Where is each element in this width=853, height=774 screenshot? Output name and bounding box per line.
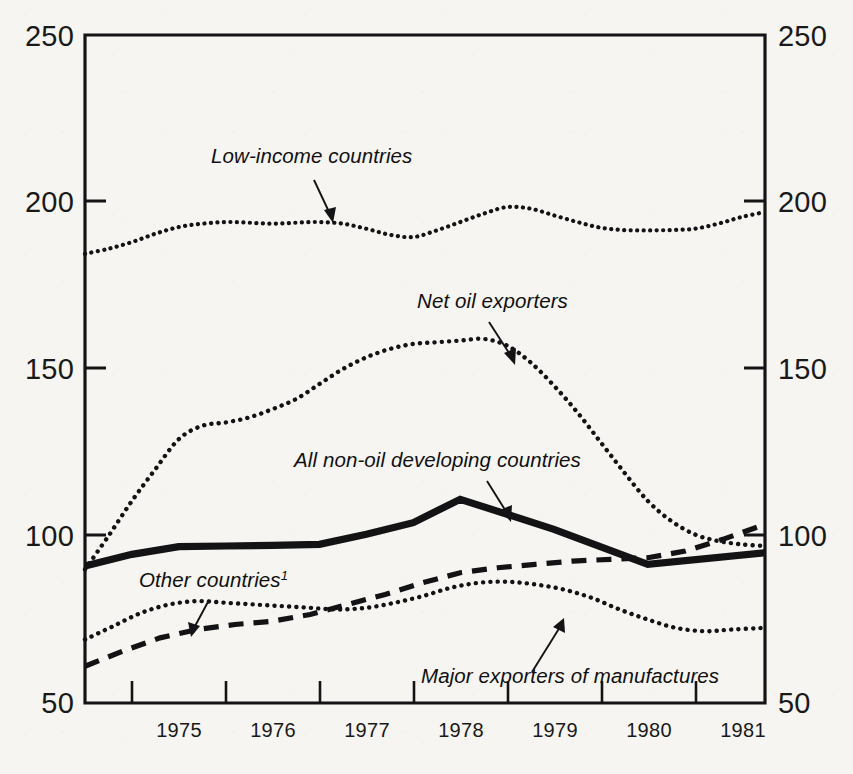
y-axis-label-left-200: 200 [25,186,74,218]
data-series-group [85,207,765,667]
series-label-other-countries: Other countries1 [139,568,288,591]
arrowhead-low-income [324,207,336,223]
leader-line-low-income [314,180,330,214]
series-line-all-non-oil-developing-countries [85,499,765,566]
y-axis-label-right-150: 150 [778,353,827,385]
arrowhead-other-countries [188,622,200,637]
x-axis-label-1979: 1979 [532,719,578,741]
x-axis-label-1975: 1975 [156,719,202,741]
x-axis-label-1978: 1978 [438,719,484,741]
y-axis-label-left-100: 100 [25,520,74,552]
y-axis-label-right-100: 100 [778,520,827,552]
series-line-low-income-countries [85,207,765,254]
y-axis-label-left-150: 150 [25,353,74,385]
y-axis-label-left-250: 250 [25,20,74,52]
y-axis-label-right-200: 200 [778,186,827,218]
y-axis-label-right-250: 250 [778,20,827,52]
series-label-major-exporters-of-manufactures: Major exporters of manufactures [421,664,719,687]
series-label-other-countries-text: Other countries [139,568,281,591]
arrowhead-net-oil-exporters [504,348,516,365]
y-axis-ticks-right [744,201,765,535]
series-label-low-income-countries: Low-income countries [211,144,412,167]
series-label-other-countries-footnote-marker: 1 [281,568,288,583]
chart-figure: 250 200 150 100 50 250 200 150 100 50 19… [0,0,853,774]
series-label-all-non-oil-developing-countries: All non-oil developing countries [292,448,581,471]
series-label-net-oil-exporters: Net oil exporters [417,289,568,312]
arrowhead-major-exporters [553,618,565,633]
leader-line-other-countries [194,600,209,628]
line-chart-svg: 250 200 150 100 50 250 200 150 100 50 19… [0,0,853,774]
x-axis-label-1976: 1976 [250,719,296,741]
y-axis-label-left-50: 50 [41,687,74,719]
x-axis-label-1981: 1981 [720,719,766,741]
x-axis-label-1977: 1977 [344,719,390,741]
y-axis-label-right-50: 50 [778,687,811,719]
x-axis-label-1980: 1980 [626,719,672,741]
